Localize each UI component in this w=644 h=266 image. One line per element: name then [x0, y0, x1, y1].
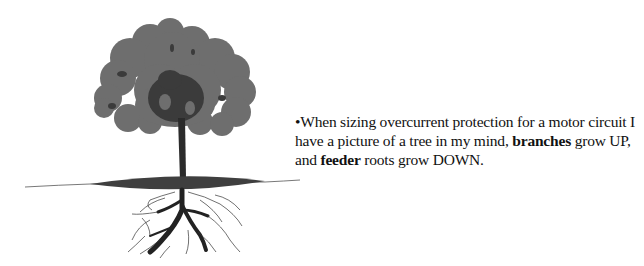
main-roots [150, 190, 208, 252]
explanation-text: •When sizing overcurrent protection for … [295, 112, 640, 169]
ground-band [90, 176, 265, 189]
text-segment-branches: branches [512, 132, 571, 149]
tree-illustration [0, 0, 310, 266]
tree-with-roots-icon [0, 0, 310, 266]
text-segment-feeder: feeder [320, 151, 360, 168]
slide: •When sizing overcurrent protection for … [0, 0, 644, 266]
trunk [178, 118, 186, 180]
bullet-paragraph: •When sizing overcurrent protection for … [295, 112, 640, 169]
text-segment-4: roots grow DOWN. [361, 151, 484, 168]
fine-roots [128, 192, 242, 258]
